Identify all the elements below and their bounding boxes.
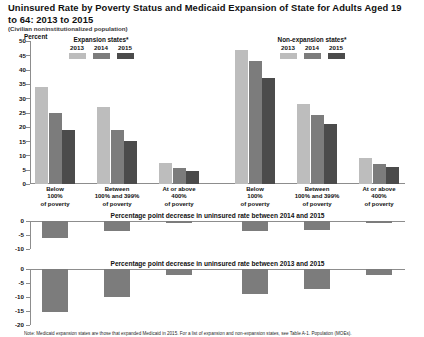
main-bar-area bbox=[30, 41, 405, 184]
sub-y-tick-label: 0 bbox=[4, 265, 24, 272]
sub-y-tick-mark bbox=[26, 283, 30, 284]
y-tick-mark bbox=[26, 184, 30, 185]
y-tick-label: 45 bbox=[12, 52, 26, 59]
sub-y-tick-label: -5 bbox=[4, 279, 24, 286]
y-tick-mark bbox=[26, 113, 30, 114]
bar-2013 bbox=[359, 158, 372, 184]
y-tick-mark bbox=[26, 70, 30, 71]
sub-bar bbox=[166, 221, 192, 223]
x-category-label: At or above400%of poverty bbox=[147, 186, 211, 208]
x-category-line: Between bbox=[85, 186, 149, 193]
sub-y-tick-mark bbox=[26, 221, 30, 222]
x-category-line: Below bbox=[223, 186, 287, 193]
sub-bar bbox=[366, 221, 392, 223]
sub-bar bbox=[104, 269, 130, 297]
bar-2015 bbox=[62, 130, 75, 184]
y-tick-label: 50 bbox=[12, 37, 26, 44]
sub-y-tick-mark bbox=[26, 249, 30, 250]
sub-y-tick-label: -5 bbox=[4, 231, 24, 238]
x-category-line: Between bbox=[285, 186, 349, 193]
sub-bar bbox=[166, 269, 192, 275]
x-category-line: 400% bbox=[347, 193, 411, 200]
figure-root: Uninsured Rate by Poverty Status and Med… bbox=[0, 0, 424, 337]
sub-y-axis bbox=[30, 221, 31, 249]
zero-line bbox=[30, 269, 405, 270]
x-category-label: Below100%of poverty bbox=[23, 186, 87, 208]
sub-bar bbox=[42, 221, 68, 238]
x-category-label: Between100% and 399%of poverty bbox=[85, 186, 149, 208]
bar-2014 bbox=[249, 61, 262, 184]
sub-y-axis bbox=[30, 269, 31, 325]
sub-y-tick-mark bbox=[26, 311, 30, 312]
subpanel-1-title: Percentage point decrease in uninsured r… bbox=[30, 212, 405, 219]
sub-bar bbox=[304, 221, 330, 230]
bar-2014 bbox=[49, 113, 62, 185]
x-category-line: 100% and 399% bbox=[285, 193, 349, 200]
sub-y-tick-mark bbox=[26, 235, 30, 236]
chart-subtitle: (Civilian noninstitutionalized populatio… bbox=[8, 25, 128, 32]
sub-bar bbox=[366, 269, 392, 275]
y-tick-label: 20 bbox=[12, 123, 26, 130]
bar-2015 bbox=[386, 167, 399, 184]
x-category-line: of poverty bbox=[347, 201, 411, 208]
y-tick-label: 5 bbox=[12, 166, 26, 173]
y-tick-label: 25 bbox=[12, 109, 26, 116]
y-tick-label: 10 bbox=[12, 152, 26, 159]
y-tick-mark bbox=[26, 41, 30, 42]
figure-footnote: Note: Medicaid expansion states are thos… bbox=[24, 331, 420, 336]
sub-bar bbox=[104, 221, 130, 231]
bar-2013 bbox=[159, 163, 172, 184]
y-tick-mark bbox=[26, 127, 30, 128]
x-category-line: 100% bbox=[23, 193, 87, 200]
x-category-line: 400% bbox=[147, 193, 211, 200]
main-y-tick-labels: 05101520253035404550 bbox=[8, 41, 26, 184]
sub-y-tick-label: -10 bbox=[4, 245, 24, 252]
bar-2015 bbox=[186, 171, 199, 184]
y-tick-mark bbox=[26, 98, 30, 99]
y-tick-mark bbox=[26, 170, 30, 171]
y-tick-label: 15 bbox=[12, 138, 26, 145]
sub-bar bbox=[304, 269, 330, 289]
y-tick-label: 40 bbox=[12, 66, 26, 73]
x-category-line: of poverty bbox=[85, 201, 149, 208]
bar-2015 bbox=[324, 124, 337, 184]
sub-y-tick-mark bbox=[26, 269, 30, 270]
x-category-line: of poverty bbox=[285, 201, 349, 208]
sub-bar bbox=[242, 269, 268, 294]
x-category-line: of poverty bbox=[223, 201, 287, 208]
x-category-line: of poverty bbox=[147, 201, 211, 208]
sub-y-tick-label: -10 bbox=[4, 293, 24, 300]
sub-y-tick-label: -15 bbox=[4, 307, 24, 314]
x-category-line: Below bbox=[23, 186, 87, 193]
x-category-line: At or above bbox=[347, 186, 411, 193]
zero-line bbox=[30, 221, 405, 222]
y-tick-mark bbox=[26, 155, 30, 156]
x-category-line: 100% bbox=[223, 193, 287, 200]
chart-title: Uninsured Rate by Poverty Status and Med… bbox=[8, 2, 408, 25]
y-tick-mark bbox=[26, 55, 30, 56]
bar-2015 bbox=[262, 78, 275, 184]
x-category-line: of poverty bbox=[23, 201, 87, 208]
x-category-line: 100% and 399% bbox=[85, 193, 149, 200]
sub-bar bbox=[242, 221, 268, 231]
sub-y-tick-label: 0 bbox=[4, 217, 24, 224]
bar-2014 bbox=[373, 164, 386, 184]
bar-2014 bbox=[111, 130, 124, 184]
sub-bar bbox=[42, 269, 68, 312]
x-category-label: Between100% and 399%of poverty bbox=[285, 186, 349, 208]
bar-2013 bbox=[297, 104, 310, 184]
sub-y-tick-mark bbox=[26, 325, 30, 326]
subpanel-2-title: Percentage point decrease in uninsured r… bbox=[30, 260, 405, 267]
y-tick-mark bbox=[26, 84, 30, 85]
y-tick-label: 35 bbox=[12, 80, 26, 87]
bar-2013 bbox=[35, 87, 48, 184]
y-tick-label: 30 bbox=[12, 95, 26, 102]
bar-2014 bbox=[173, 168, 186, 184]
sub-y-tick-mark bbox=[26, 297, 30, 298]
sub-y-tick-label: -20 bbox=[4, 321, 24, 328]
y-tick-mark bbox=[26, 141, 30, 142]
bar-2015 bbox=[124, 141, 137, 184]
x-category-label: Below100%of poverty bbox=[223, 186, 287, 208]
y-axis-unit-label: Percent bbox=[24, 33, 47, 40]
x-category-line: At or above bbox=[147, 186, 211, 193]
